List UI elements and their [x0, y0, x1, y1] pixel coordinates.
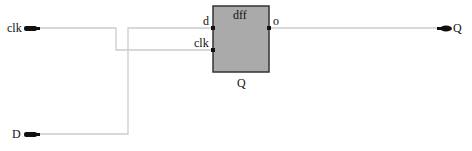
port-clk-dot[interactable] — [211, 48, 215, 52]
circuit-canvas — [0, 0, 472, 151]
port-label-o: o — [273, 15, 279, 27]
input-label-d: D — [12, 128, 21, 140]
input-label-clk: clk — [7, 22, 22, 34]
port-label-clk: clk — [194, 37, 209, 49]
port-d-dot[interactable] — [211, 26, 215, 30]
output-label-q: Q — [453, 22, 462, 34]
pin-d-input[interactable] — [24, 132, 40, 137]
port-label-d: d — [203, 15, 209, 27]
wire-clk[interactable] — [40, 28, 212, 50]
block-title: dff — [233, 9, 247, 21]
pin-clk-input[interactable] — [24, 26, 40, 31]
port-o-dot[interactable] — [267, 26, 271, 30]
wire-d[interactable] — [40, 28, 212, 134]
block-instance-label: Q — [237, 77, 246, 89]
pin-q-output[interactable] — [437, 26, 452, 32]
